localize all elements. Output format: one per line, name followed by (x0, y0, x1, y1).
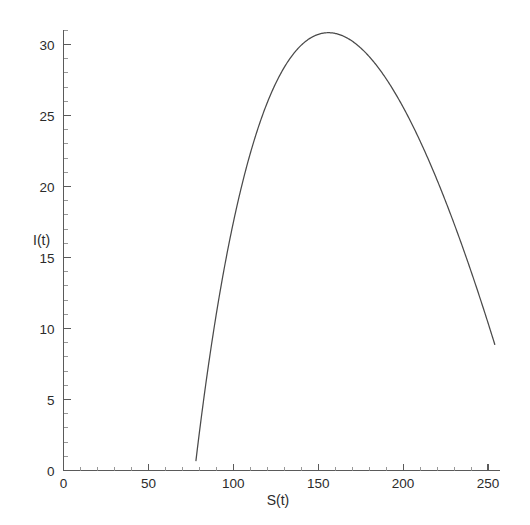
x-tick-label: 150 (307, 476, 330, 491)
y-tick-label: 20 (39, 180, 54, 195)
y-axis-title: I(t) (33, 232, 50, 248)
x-axis-ticks (64, 464, 489, 471)
x-tick-label: 100 (222, 476, 245, 491)
x-tick-label: 0 (60, 476, 68, 491)
y-axis-ticks (64, 30, 71, 470)
data-curve-i-vs-s (196, 33, 495, 461)
y-tick-label: 0 (47, 464, 55, 479)
y-tick-label: 5 (47, 393, 55, 408)
x-tick-label: 250 (477, 476, 500, 491)
x-tick-label: 200 (392, 476, 415, 491)
y-tick-label: 15 (39, 251, 54, 266)
x-tick-label: 50 (141, 476, 156, 491)
y-tick-label: 10 (39, 322, 54, 337)
x-axis-title: S(t) (267, 492, 290, 508)
y-tick-label: 30 (39, 38, 54, 53)
y-tick-label: 25 (39, 109, 54, 124)
y-axis-tick-labels: 051015202530 (39, 38, 54, 479)
chart-figure: 050100150200250 051015202530 S(t) I(t) (0, 0, 530, 525)
x-axis-tick-labels: 050100150200250 (60, 476, 500, 491)
plot-canvas: 050100150200250 051015202530 S(t) I(t) (0, 0, 530, 525)
axes (64, 30, 501, 471)
